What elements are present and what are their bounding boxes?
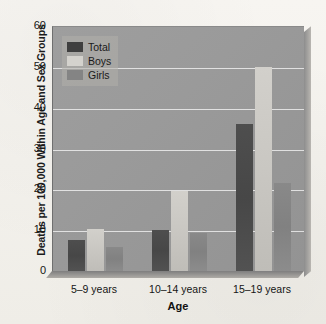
- legend-label-boys: Boys: [88, 55, 111, 67]
- x-tick-15-19: 15–19 years: [220, 283, 304, 295]
- legend-swatch-total-icon: [67, 42, 83, 52]
- bar-total-5-9: [68, 240, 85, 271]
- y-tick-30: 30: [6, 142, 46, 154]
- x-tick-10-14: 10–14 years: [136, 283, 220, 295]
- y-tick-10: 10: [6, 223, 46, 235]
- chart-figure: Deaths per 100,000 Within Age and Sex Gr…: [0, 0, 326, 324]
- plot-shadow-right: [304, 26, 311, 277]
- legend-label-total: Total: [88, 41, 110, 53]
- legend-item-total: Total: [67, 41, 111, 53]
- bar-boys-10-14: [171, 191, 188, 271]
- chart-legend: Total Boys Girls: [62, 36, 118, 86]
- legend-label-girls: Girls: [88, 69, 110, 81]
- x-tick-5-9: 5–9 years: [52, 283, 136, 295]
- y-tick-0: 0: [6, 264, 46, 276]
- legend-item-girls: Girls: [67, 69, 111, 81]
- bar-group-15-19: [221, 27, 305, 271]
- y-tick-40: 40: [6, 101, 46, 113]
- bar-total-15-19: [236, 124, 253, 271]
- bar-boys-5-9: [87, 229, 104, 271]
- y-tick-20: 20: [6, 182, 46, 194]
- x-axis-title: Age: [52, 300, 304, 312]
- legend-swatch-girls-icon: [67, 70, 83, 80]
- bar-girls-15-19: [274, 183, 291, 271]
- bar-group-10-14: [137, 27, 221, 271]
- bar-girls-5-9: [106, 247, 123, 271]
- bar-boys-15-19: [255, 67, 272, 271]
- y-tick-60: 60: [6, 19, 46, 31]
- bar-total-10-14: [152, 230, 169, 271]
- legend-swatch-boys-icon: [67, 56, 83, 66]
- legend-item-boys: Boys: [67, 55, 111, 67]
- y-tick-50: 50: [6, 60, 46, 72]
- plot-shadow-bottom: [46, 271, 304, 278]
- bar-girls-10-14: [190, 233, 207, 271]
